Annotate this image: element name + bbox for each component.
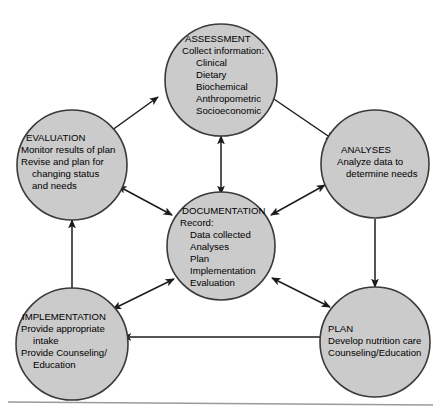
documentation-line-4: Implementation: [190, 265, 256, 276]
node-plan[interactable]: PLAN Develop nutrition care Counseling/E…: [320, 287, 430, 397]
connector-plan-documentation: [272, 278, 330, 307]
node-assessment[interactable]: ASSESSMENT Collect information: Clinical…: [165, 24, 277, 136]
node-evaluation[interactable]: EVALUATION Monitor results of plan Revis…: [17, 110, 127, 220]
documentation-line-3: Plan: [190, 253, 209, 264]
connector-implementation-documentation: [113, 279, 174, 309]
implementation-heading: IMPLEMENTATION: [22, 311, 106, 322]
evaluation-heading: EVALUATION: [26, 132, 85, 143]
node-documentation[interactable]: DOCUMENTATION Record: Data collected Ana…: [167, 192, 275, 300]
plan-line-1: Counseling/Education: [328, 347, 421, 358]
assessment-line-0: Collect information:: [182, 45, 264, 56]
analyses-line-1: determine needs: [346, 168, 418, 179]
evaluation-line-0: Monitor results of plan: [21, 144, 115, 155]
analyses-heading: ANALYSES: [341, 144, 391, 155]
bottom-divider: [8, 402, 433, 405]
analyses-line-0: Analyze data to: [337, 156, 403, 167]
assessment-line-5: Socioeconomic: [196, 105, 261, 116]
evaluation-line-1: Revise and plan for: [21, 156, 104, 167]
implementation-line-1: intake: [33, 335, 59, 346]
documentation-line-1: Data collected: [190, 229, 251, 240]
documentation-line-0: Record:: [180, 217, 214, 228]
node-analyses[interactable]: ANALYSES Analyze data to determine needs: [321, 110, 429, 218]
assessment-line-1: Clinical: [196, 57, 227, 68]
implementation-line-3: Education: [33, 359, 76, 370]
implementation-line-0: Provide appropriate: [21, 323, 105, 334]
nutrition-care-process-diagram: ASSESSMENT Collect information: Clinical…: [0, 0, 441, 414]
assessment-line-2: Dietary: [196, 69, 227, 80]
evaluation-line-3: and needs: [32, 180, 77, 191]
plan-heading: PLAN: [328, 323, 353, 334]
documentation-line-5: Evaluation: [190, 277, 235, 288]
connector-evaluation-documentation: [118, 186, 172, 215]
documentation-line-2: Analyses: [190, 241, 229, 252]
implementation-line-2: Provide Counseling/: [21, 347, 107, 358]
documentation-heading: DOCUMENTATION: [182, 205, 265, 216]
connector-analyses-documentation: [271, 185, 325, 215]
assessment-heading: ASSESSMENT: [185, 33, 251, 44]
assessment-line-3: Biochemical: [196, 81, 248, 92]
assessment-line-4: Anthropometric: [196, 93, 261, 104]
evaluation-line-2: changing status: [32, 168, 99, 179]
connector-assessment-to-analyses: [268, 95, 334, 140]
plan-line-0: Develop nutrition care: [328, 335, 421, 346]
node-implementation[interactable]: IMPLEMENTATION Provide appropriate intak…: [16, 288, 128, 400]
